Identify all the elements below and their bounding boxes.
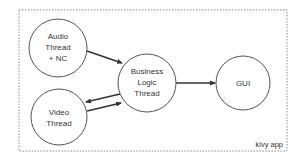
video-thread-circle (31, 89, 87, 145)
video-thread-label-line1: Video (49, 108, 70, 117)
audio-thread-label-line1: Audio (48, 32, 69, 41)
node-video-thread: Video Thread (31, 89, 87, 145)
kivy-app-label: kivy app (255, 140, 283, 149)
edge-audio-to-business (87, 51, 122, 63)
node-audio-thread: Audio Thread + NC (29, 19, 87, 77)
business-logic-label-line2: Logic (137, 78, 156, 87)
edge-video-to-business (87, 103, 121, 111)
business-logic-label-line3: Thread (134, 89, 159, 98)
audio-thread-label-line2: Thread (45, 43, 70, 52)
gui-label: GUI (236, 79, 250, 88)
edge-business-to-video (86, 94, 120, 102)
business-logic-label-line1: Business (131, 67, 163, 76)
audio-thread-label-line3: + NC (49, 54, 68, 63)
thread-architecture-diagram: Audio Thread + NC Video Thread Business … (0, 0, 303, 160)
node-business-logic-thread: Business Logic Thread (118, 54, 176, 112)
video-thread-label-line2: Thread (46, 119, 71, 128)
node-gui: GUI (216, 56, 270, 110)
